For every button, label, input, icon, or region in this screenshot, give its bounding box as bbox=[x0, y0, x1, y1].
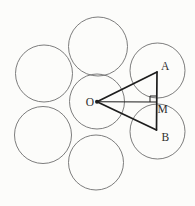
point-label-O: O bbox=[86, 96, 94, 108]
packing-circle-top bbox=[69, 17, 128, 76]
diagram-page: OAMB bbox=[0, 0, 195, 206]
packing-circle-lower-left bbox=[15, 107, 72, 164]
point-label-B: B bbox=[162, 131, 170, 143]
packing-circle-upper-left bbox=[16, 45, 73, 102]
point-label-A: A bbox=[161, 60, 170, 72]
geometry-figure: OAMB bbox=[0, 0, 195, 206]
segment-AB bbox=[157, 72, 158, 130]
packing-circle-bottom bbox=[69, 135, 124, 190]
segment-OA bbox=[97, 72, 157, 102]
center-point-dot bbox=[95, 100, 99, 104]
point-label-M: M bbox=[158, 103, 168, 115]
